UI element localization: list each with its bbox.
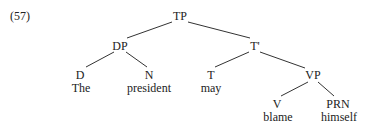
node-dp: DP	[112, 40, 127, 52]
node-t: T	[207, 69, 214, 81]
edge-vp-prn	[318, 82, 334, 96]
edge-vp-v	[281, 82, 308, 96]
edge-tp-dp	[127, 22, 172, 38]
word-the: The	[72, 82, 91, 94]
edge-dp-d	[86, 52, 114, 67]
edge-dp-n	[126, 52, 147, 67]
word-may: may	[201, 82, 222, 94]
edge-tp-tbar	[188, 22, 250, 38]
word-himself: himself	[321, 111, 357, 123]
node-v: V	[273, 98, 282, 110]
word-blame: blame	[263, 111, 292, 123]
node-prn: PRN	[326, 98, 349, 110]
node-d: D	[76, 69, 85, 81]
word-president: president	[127, 82, 171, 94]
node-tbar: T'	[250, 40, 260, 52]
node-tp: TP	[173, 10, 187, 22]
node-vp: VP	[305, 69, 320, 81]
edge-tbar-vp	[260, 52, 305, 68]
edge-tbar-t	[215, 52, 249, 67]
node-n: N	[145, 69, 154, 81]
